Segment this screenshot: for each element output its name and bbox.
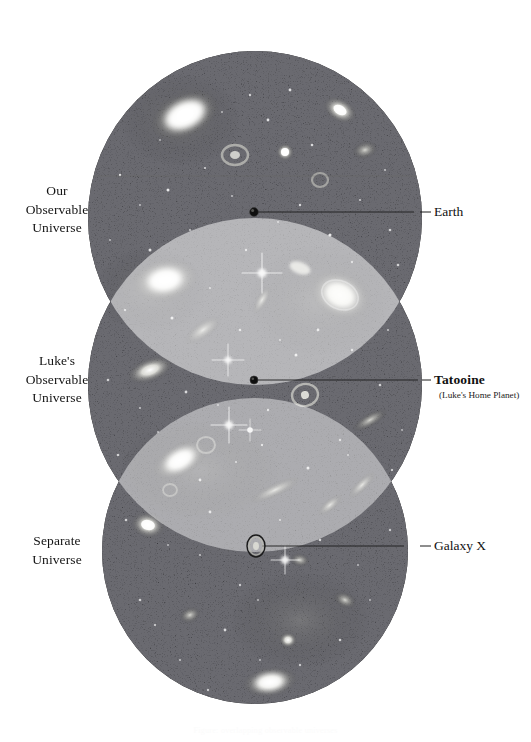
sidebar-label-our-observable-universe: Our Observable Universe: [2, 182, 112, 238]
callout-earth-title: Earth: [434, 205, 531, 220]
label-line: Luke's: [2, 352, 112, 371]
sidebar-label-lukes-observable-universe: Luke's Observable Universe: [2, 352, 112, 408]
tatooine-marker: [250, 376, 258, 384]
label-line: Our: [2, 182, 112, 201]
earth-marker: [250, 208, 259, 217]
callout-tatooine-title: Tatooine: [434, 373, 531, 388]
label-line: Observable: [2, 201, 112, 220]
universes-figure: Our Observable Universe Luke's Observabl…: [0, 0, 531, 742]
label-line: Separate: [2, 532, 112, 551]
bottom-caption: Figure: overlapping observable universes: [0, 726, 531, 735]
callout-tatooine-subtitle: (Luke's Home Planet): [439, 390, 531, 401]
callout-galaxy-x: Galaxy X: [434, 539, 531, 554]
sidebar-label-separate-universe: Separate Universe: [2, 532, 112, 569]
label-line: Universe: [2, 389, 112, 408]
callout-earth: Earth: [434, 205, 531, 220]
callout-galaxy-x-title: Galaxy X: [434, 539, 531, 554]
callout-tatooine: Tatooine (Luke's Home Planet): [434, 373, 531, 400]
label-line: Universe: [2, 219, 112, 238]
label-line: Observable: [2, 371, 112, 390]
label-line: Universe: [2, 551, 112, 570]
